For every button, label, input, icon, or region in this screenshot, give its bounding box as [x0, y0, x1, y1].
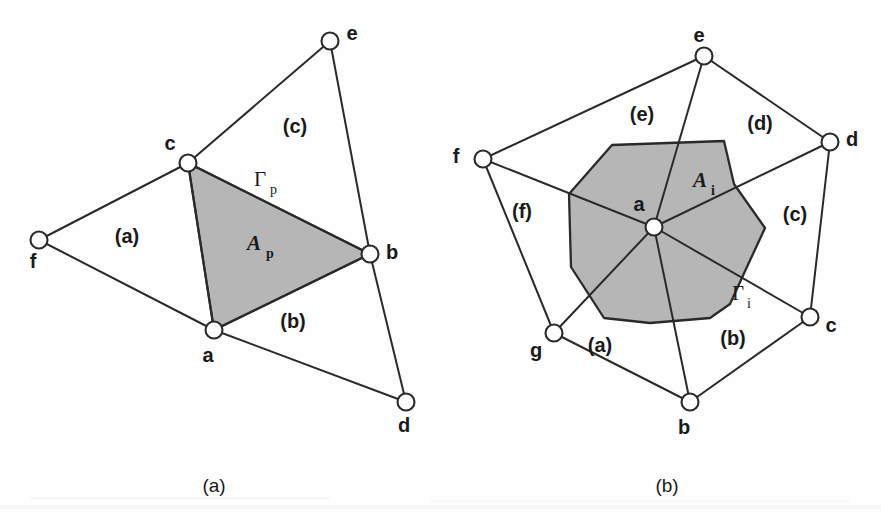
node-label-a: a: [202, 344, 214, 366]
gamma-label-Gi: Γ i: [732, 281, 751, 311]
panel-b: a e d c b g f (a) (b) (c) (d) (e) (f) A …: [453, 24, 858, 496]
node-label-f: f: [30, 250, 37, 272]
cell-label-c: (c): [783, 203, 807, 225]
cell-label-a: (a): [115, 225, 139, 247]
edge-e-b: [330, 41, 370, 254]
panel-b-caption: (b): [655, 475, 678, 496]
area-label-Ai-subscript: i: [711, 183, 715, 198]
node-b[interactable]: [682, 394, 699, 411]
edge-d-c: [810, 142, 830, 317]
svg-text:A: A: [691, 168, 707, 192]
node-label-e: e: [346, 22, 357, 44]
node-g[interactable]: [546, 325, 563, 342]
control-volume-Ap: [188, 163, 370, 330]
panel-a-caption: (a): [202, 475, 225, 496]
node-label-a: a: [633, 193, 645, 215]
node-a[interactable]: [646, 219, 663, 236]
node-e[interactable]: [322, 33, 339, 50]
panel-a-control-volume: [188, 163, 370, 330]
panel-a: f c e b a d (a) (b) (c) A p Γ p: [30, 22, 415, 496]
edge-f-c: [39, 163, 188, 240]
area-label-Ap-subscript: p: [266, 246, 274, 261]
edge-c-b: [690, 317, 810, 402]
node-label-d: d: [398, 414, 410, 436]
cell-label-d: (d): [747, 112, 773, 134]
node-d[interactable]: [398, 394, 415, 411]
node-label-b: b: [386, 241, 398, 263]
edge-b-d: [370, 254, 406, 402]
edge-a-d: [214, 330, 406, 402]
node-label-c: c: [825, 314, 836, 336]
node-f[interactable]: [31, 232, 48, 249]
node-label-c: c: [164, 132, 175, 154]
cell-label-b: (b): [280, 310, 306, 332]
node-label-g: g: [530, 339, 542, 361]
scan-artifacts: [0, 497, 881, 509]
edge-b-g: [554, 333, 690, 402]
node-label-b: b: [678, 416, 690, 438]
node-label-d: d: [846, 128, 858, 150]
node-d[interactable]: [822, 134, 839, 151]
cell-label-a: (a): [588, 334, 612, 356]
node-e[interactable]: [696, 48, 713, 65]
gamma-label-Gp-subscript: p: [270, 182, 277, 197]
cell-label-b: (b): [720, 327, 746, 349]
node-f[interactable]: [475, 151, 492, 168]
gamma-label-Gi-subscript: i: [747, 296, 751, 311]
gamma-label-Gp: Γ p: [254, 167, 277, 197]
cell-label-f: (f): [512, 200, 532, 222]
cell-label-c: (c): [283, 115, 307, 137]
node-label-e: e: [693, 24, 704, 46]
diagram-canvas: f c e b a d (a) (b) (c) A p Γ p: [0, 0, 881, 523]
node-c[interactable]: [180, 155, 197, 172]
node-c[interactable]: [802, 309, 819, 326]
svg-text:A: A: [245, 231, 261, 255]
node-a[interactable]: [206, 322, 223, 339]
cell-label-e: (e): [630, 103, 654, 125]
edge-g-f: [483, 159, 554, 333]
node-label-f: f: [453, 145, 460, 167]
edge-c-e: [188, 41, 330, 163]
node-b[interactable]: [362, 246, 379, 263]
edge-f-a: [39, 240, 214, 330]
figure-root: f c e b a d (a) (b) (c) A p Γ p: [0, 0, 881, 523]
svg-text:Γ: Γ: [254, 167, 266, 191]
svg-text:Γ: Γ: [732, 281, 744, 305]
